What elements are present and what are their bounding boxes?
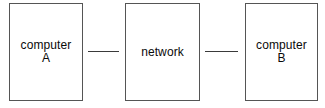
network-diagram: computer A network computer B [0,0,325,108]
node-network: network [125,3,200,101]
node-computer-b: computer B [245,3,318,101]
node-computer-a-label-line2: A [42,52,50,65]
node-computer-b-label-line2: B [277,52,285,65]
link-computer-a-to-network [88,51,119,52]
node-network-label-line1: network [141,46,184,59]
node-computer-a: computer A [9,3,83,101]
link-network-to-computer-b [205,51,238,52]
